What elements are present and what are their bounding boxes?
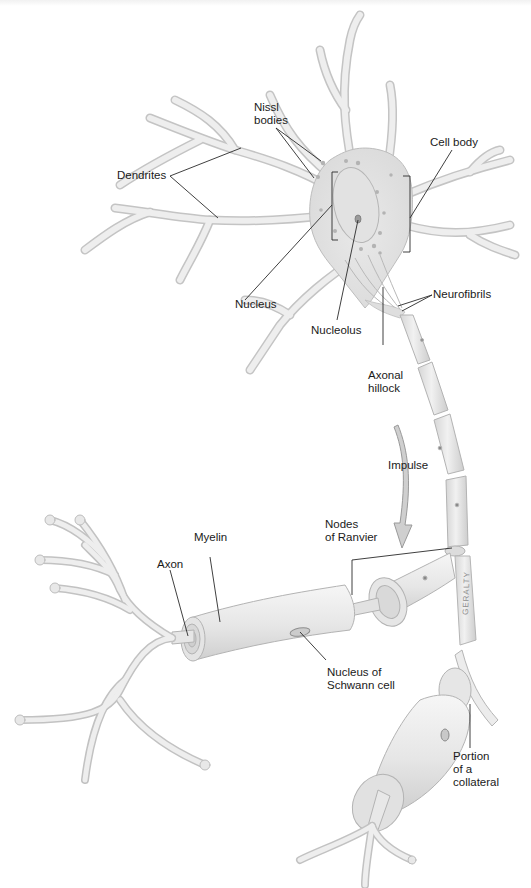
axon-left-segments [172,553,455,661]
axon-upper-segments [400,315,468,556]
label-axonal-hillock: Axonal hillock [368,369,403,395]
dendrites-upper [85,15,515,370]
axon-terminals [15,515,416,885]
label-portion-of-a-collateral: Portion of a collateral [453,750,499,789]
label-impulse: Impulse [388,459,428,472]
label-nucleus-of-schwann-cell: Nucleus of Schwann cell [327,666,395,692]
label-nissl-bodies: Nissl bodies [254,101,288,127]
label-nucleus: Nucleus [235,298,277,311]
artist-signature: GERALTY [461,571,472,615]
label-nucleolus: Nucleolus [311,324,362,337]
impulse-arrow-icon [394,425,412,548]
axon-lower-segment [342,668,471,841]
label-dendrites: Dendrites [117,169,166,182]
label-myelin: Myelin [194,531,227,544]
label-axon: Axon [157,558,183,571]
label-cell-body: Cell body [430,136,478,149]
label-nodes-of-ranvier: Nodes of Ranvier [325,518,377,544]
neuron-illustration: GERALTY [0,0,531,888]
label-neurofibrils: Neurofibrils [433,288,491,301]
